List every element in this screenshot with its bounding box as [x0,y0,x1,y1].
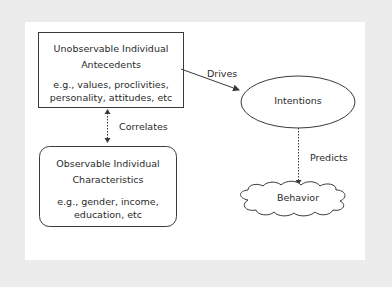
drives-label: Drives [207,68,237,79]
antecedents-examples-line1: e.g., values, proclivities, [38,79,184,92]
antecedents-title-line2: Antecedents [38,58,184,72]
intentions-label: Intentions [241,95,355,106]
antecedents-title: Unobservable Individual Antecedents [38,42,184,71]
antecedents-examples: e.g., values, proclivities, personality,… [38,79,184,104]
behavior-label: Behavior [258,192,338,203]
predicts-arrow [296,128,302,185]
characteristics-title-line2: Characteristics [39,173,177,187]
correlates-arrow [105,109,111,143]
characteristics-examples-line2: education, etc [39,209,177,222]
characteristics-examples-line1: e.g., gender, income, [39,196,177,209]
correlates-label: Correlates [119,121,168,132]
antecedents-title-line1: Unobservable Individual [38,42,184,56]
characteristics-examples: e.g., gender, income, education, etc [39,196,177,221]
antecedents-examples-line2: personality, attitudes, etc [38,92,184,105]
characteristics-title-line1: Observable Individual [39,157,177,171]
characteristics-title: Observable Individual Characteristics [39,157,177,186]
predicts-label: Predicts [310,152,348,163]
